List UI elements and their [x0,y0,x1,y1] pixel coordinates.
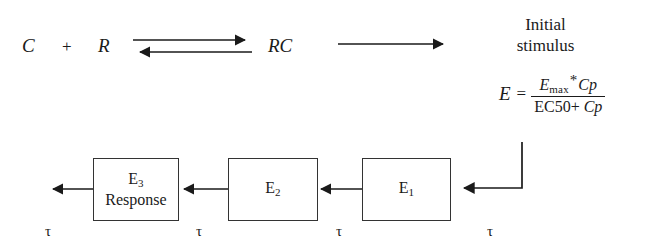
equation-denominator: EC50+ Cp [531,96,605,116]
transit-delay-tau-e2: τ [336,224,342,239]
compartment-e2[interactable]: E2 [228,158,318,221]
compartment-e2-label: E2 [265,179,280,201]
transit-delay-tau-output: τ [45,224,51,239]
initial-stimulus-line-1: Initial [468,14,623,35]
numerator-operator: * [569,72,579,88]
numerator-subscript: max [549,83,569,95]
transit-delay-tau-e1: τ [487,224,493,239]
denominator-operator: + [571,98,580,115]
compartment-e1-label: E1 [399,179,414,201]
pkpd-transit-compartment-diagram: C + R RC Initial stimulus E = Emax*Cp EC… [0,0,657,244]
stimulus-to-e1-elbow-arrow [464,142,522,188]
compartment-e3[interactable]: E3 Response [93,158,179,221]
equation-fraction: Emax*Cp EC50+ Cp [531,72,605,116]
equation-equals-sign: = [517,85,527,102]
reactant-receptor-label: R [98,36,110,55]
compartment-e3-sublabel: Response [105,191,166,209]
denominator-term: Cp [584,98,603,115]
denominator-constant: EC50 [534,98,570,115]
equation-lhs: E [499,84,511,103]
compartment-e1-base: E [399,179,409,196]
complex-rc-label: RC [268,36,292,55]
compartment-e1[interactable]: E1 [362,158,451,221]
emax-equation: E = Emax*Cp EC50+ Cp [499,72,605,116]
compartment-e3-label: E3 [128,170,143,192]
compartment-e2-base: E [265,179,275,196]
numerator-term: Cp [578,76,597,93]
reactant-drug-label: C [22,36,35,55]
compartment-e3-base: E [128,170,138,187]
compartment-e2-subscript: 2 [275,185,281,197]
compartment-e3-subscript: 3 [138,176,144,188]
transit-delay-tau-e3: τ [196,224,202,239]
plus-operator: + [62,38,72,55]
compartment-e1-subscript: 1 [409,185,415,197]
initial-stimulus-caption: Initial stimulus [468,14,623,56]
numerator-base: E [540,76,550,93]
initial-stimulus-line-2: stimulus [468,35,623,56]
equation-numerator: Emax*Cp [537,72,601,96]
